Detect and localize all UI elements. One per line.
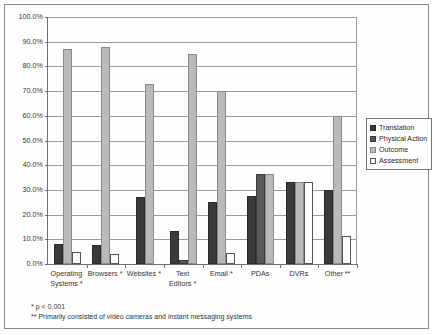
bar <box>188 54 197 264</box>
bar <box>136 197 145 264</box>
chart-footnotes: * p < 0.001** Primarily consisted of vid… <box>31 302 411 322</box>
x-tick-label: Browsers * <box>86 269 125 301</box>
footnote: * p < 0.001 <box>31 302 411 312</box>
bar-group <box>48 17 87 264</box>
legend-swatch-icon <box>370 147 376 153</box>
bar-group <box>203 17 242 264</box>
y-tick-label: 70.0% <box>23 87 43 94</box>
x-tick-label: DVRs <box>280 269 319 301</box>
bar-group <box>318 17 357 264</box>
legend-label: Translation <box>379 124 414 131</box>
bar <box>217 91 226 264</box>
y-tick-label: 90.0% <box>23 38 43 45</box>
y-tick-label: 10.0% <box>23 236 43 243</box>
y-tick-label: 100.0% <box>19 13 43 20</box>
chart-legend: TranslationPhysical ActionOutcomeAssessm… <box>366 118 432 170</box>
bar <box>145 84 154 264</box>
plot-wrapper: 100.0%90.0%80.0%70.0%60.0%50.0%40.0%30.0… <box>5 5 430 330</box>
bar-group <box>280 17 319 264</box>
legend-label: Assessment <box>379 157 418 164</box>
footnote: ** Primarily consisted of video cameras … <box>31 312 411 322</box>
y-tick-label: 30.0% <box>23 186 43 193</box>
x-tick-label: OperatingSystems * <box>47 269 86 301</box>
bar <box>247 196 256 264</box>
x-axis-labels: OperatingSystems *Browsers *Websites *Te… <box>47 269 357 301</box>
bar-group <box>125 17 164 264</box>
x-tick-mark <box>280 264 281 268</box>
bar <box>101 47 110 264</box>
y-tick-label: 20.0% <box>23 211 43 218</box>
legend-swatch-icon <box>370 136 376 142</box>
bar <box>170 231 179 264</box>
legend-label: Outcome <box>379 146 408 153</box>
bar <box>179 260 188 264</box>
legend-label: Physical Action <box>379 135 427 142</box>
bar <box>110 254 119 264</box>
y-tick-label: 40.0% <box>23 162 43 169</box>
x-tick-mark <box>125 264 126 268</box>
bar <box>304 182 313 264</box>
x-tick-label: Email * <box>202 269 241 301</box>
bar <box>295 182 304 264</box>
x-tick-label: TextEditors * <box>163 269 202 301</box>
bar <box>324 190 333 264</box>
y-tick-label: 60.0% <box>23 112 43 119</box>
chart-figure: 100.0%90.0%80.0%70.0%60.0%50.0%40.0%30.0… <box>4 4 429 329</box>
y-tick-label: 80.0% <box>23 63 43 70</box>
x-tick-label: Websites * <box>125 269 164 301</box>
x-tick-label: Other ** <box>318 269 357 301</box>
x-tick-mark <box>87 264 88 268</box>
bar <box>256 174 265 264</box>
bar <box>333 116 342 264</box>
bar <box>342 236 351 264</box>
legend-swatch-icon <box>370 125 376 131</box>
bar-groups <box>48 17 357 264</box>
bar-group <box>164 17 203 264</box>
y-tick-label: 0.0% <box>27 260 43 267</box>
y-tick-label: 50.0% <box>23 137 43 144</box>
bar-group <box>241 17 280 264</box>
x-tick-mark <box>203 264 204 268</box>
x-tick-mark <box>164 264 165 268</box>
bar <box>226 253 235 264</box>
bar-group <box>87 17 126 264</box>
bar <box>72 252 81 264</box>
bar <box>286 182 295 264</box>
bar <box>92 245 101 264</box>
x-tick-mark <box>357 264 358 268</box>
legend-item: Translation <box>370 122 427 133</box>
x-tick-label: PDAs <box>241 269 280 301</box>
bar <box>265 174 274 264</box>
legend-swatch-icon <box>370 158 376 164</box>
legend-item: Outcome <box>370 144 427 155</box>
plot-area: 100.0%90.0%80.0%70.0%60.0%50.0%40.0%30.0… <box>47 17 357 265</box>
x-tick-mark <box>241 264 242 268</box>
bar <box>54 244 63 264</box>
bar <box>208 202 217 264</box>
bar <box>63 49 72 264</box>
legend-item: Physical Action <box>370 133 427 144</box>
legend-item: Assessment <box>370 155 427 166</box>
y-tick-mark <box>45 264 48 265</box>
x-tick-mark <box>318 264 319 268</box>
